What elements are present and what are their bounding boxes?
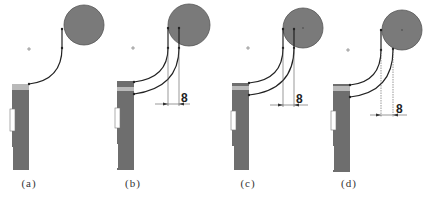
origin-crosshair-icon [246,46,250,50]
clamp-bar [115,81,134,170]
belt-arc-inner [350,49,393,97]
panel-b: 8 (b) [115,4,210,190]
origin-crosshair-icon [131,46,135,50]
caption-b: (b) [125,177,141,190]
center-mark-icon [401,29,403,31]
caption-a: (a) [21,177,36,190]
center-mark-icon [302,27,304,29]
clamp-bar [231,83,249,170]
figure-canvas: (a) 8 (b) [0,0,428,200]
dimension-value: 8 [296,92,303,106]
clamp-bar [331,84,350,172]
origin-crosshair-icon [346,48,350,52]
caption-c: (c) [240,177,255,190]
panel-d: 8 (d) [331,10,422,190]
belt-arc-outer [350,30,381,85]
dimension-value: 8 [396,102,403,116]
belt-arc [29,29,62,84]
pulley-circle [168,4,210,46]
belt-arc-outer [249,29,283,83]
belt-arc-outer [134,28,168,82]
panel-c: 8 (c) [231,8,323,190]
panel-a: (a) [10,5,104,190]
sketch-points [28,28,63,85]
dimension-value: 8 [181,91,188,105]
caption-d: (d) [341,177,357,190]
pulley-circle [64,5,104,45]
origin-crosshair-icon [27,47,31,51]
clamp-bar [10,84,29,170]
